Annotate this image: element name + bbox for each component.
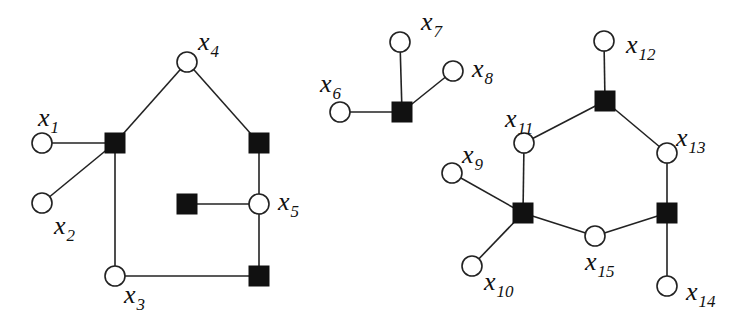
edge-x15-fH — [595, 213, 667, 236]
label-x12: x12 — [625, 30, 656, 64]
variable-node-x10 — [462, 256, 482, 276]
variable-node-x13 — [657, 143, 677, 163]
factor-node-fB — [249, 133, 269, 153]
edge-x4-fA — [115, 62, 187, 143]
label-x3: x3 — [123, 280, 145, 314]
variable-node-x8 — [443, 61, 463, 81]
variable-labels: x1x2x3x4x5x6x7x8x9x10x11x12x13x14x15 — [37, 7, 716, 314]
factor-node-fD — [249, 266, 269, 286]
variable-node-x2 — [32, 193, 52, 213]
label-x2: x2 — [53, 211, 76, 245]
variable-node-x9 — [442, 163, 462, 183]
factor-node-fA — [105, 133, 125, 153]
label-x5: x5 — [277, 187, 299, 221]
variable-node-x3 — [105, 266, 125, 286]
variable-node-x4 — [177, 52, 197, 72]
edges — [42, 41, 667, 286]
edge-x11-fF — [524, 101, 605, 143]
edge-x9-fG — [452, 173, 523, 213]
label-x11: x11 — [504, 104, 533, 138]
variable-node-x1 — [32, 133, 52, 153]
variable-node-x5 — [249, 194, 269, 214]
edge-x15-fG — [523, 213, 595, 236]
label-x10: x10 — [483, 267, 514, 301]
label-x7: x7 — [420, 7, 444, 41]
label-x15: x15 — [584, 247, 615, 281]
label-x13: x13 — [675, 123, 706, 157]
variable-node-x7 — [390, 32, 410, 52]
label-x9: x9 — [461, 140, 484, 174]
label-x1: x1 — [37, 103, 59, 137]
variable-node-x14 — [657, 276, 677, 296]
variable-node-x6 — [330, 102, 350, 122]
variable-node-x15 — [585, 226, 605, 246]
factor-node-fC — [177, 194, 197, 214]
variable-node-x12 — [594, 31, 614, 51]
label-x4: x4 — [197, 27, 220, 61]
edge-x2-fA — [42, 143, 115, 203]
label-x14: x14 — [685, 277, 716, 311]
factor-node-fH — [657, 203, 677, 223]
factor-node-fG — [513, 203, 533, 223]
factor-node-fF — [595, 91, 615, 111]
label-x8: x8 — [471, 54, 494, 88]
variable-nodes — [32, 31, 677, 296]
factor-graph: x1x2x3x4x5x6x7x8x9x10x11x12x13x14x15 — [0, 0, 752, 332]
edge-x4-fB — [187, 62, 259, 143]
label-x6: x6 — [319, 69, 342, 103]
factor-node-fE — [392, 102, 412, 122]
